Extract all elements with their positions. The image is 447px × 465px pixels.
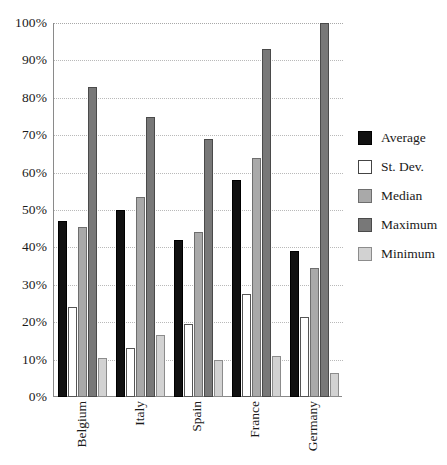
- bar-italy-average[interactable]: [116, 210, 125, 397]
- legend-label-minimum: Minimum: [381, 247, 435, 261]
- bar-group-france: [227, 23, 285, 397]
- y-axis-tick-30: 30%: [3, 278, 47, 292]
- y-axis-tick-60: 60%: [3, 166, 47, 180]
- x-axis-slot-belgium: Belgium: [53, 399, 111, 465]
- bar-spain-st-dev[interactable]: [184, 324, 193, 397]
- bar-france-minimum[interactable]: [272, 356, 281, 397]
- bar-france-st-dev[interactable]: [242, 294, 251, 397]
- y-axis-tick-80: 80%: [3, 91, 47, 105]
- bar-germany-median[interactable]: [310, 268, 319, 397]
- x-axis-slot-germany: Germany: [284, 399, 342, 465]
- x-axis-tick-france: France: [249, 401, 263, 438]
- x-axis-tick-belgium: Belgium: [75, 401, 89, 448]
- legend-item-maximum[interactable]: Maximum: [358, 210, 446, 239]
- legend-item-average[interactable]: Average: [358, 123, 446, 152]
- bar-italy-st-dev[interactable]: [126, 348, 135, 397]
- legend-swatch-average: [358, 131, 372, 145]
- bar-france-average[interactable]: [232, 180, 241, 397]
- y-axis-tick-90: 90%: [3, 53, 47, 67]
- y-axis-tick-0: 0%: [3, 390, 47, 404]
- legend-label-maximum: Maximum: [381, 218, 437, 232]
- legend-label-st-dev: St. Dev.: [381, 160, 424, 174]
- x-axis-slot-italy: Italy: [111, 399, 169, 465]
- y-axis-tick-labels: 0%10%20%30%40%50%60%70%80%90%100%: [0, 0, 47, 465]
- bar-belgium-maximum[interactable]: [88, 87, 97, 397]
- legend-item-st-dev[interactable]: St. Dev.: [358, 152, 446, 181]
- bar-italy-median[interactable]: [136, 197, 145, 397]
- bar-spain-average[interactable]: [174, 240, 183, 397]
- bar-spain-median[interactable]: [194, 232, 203, 397]
- plot-area: [53, 23, 342, 397]
- bar-group-belgium: [54, 23, 112, 397]
- legend-item-minimum[interactable]: Minimum: [358, 239, 446, 268]
- legend-swatch-st-dev: [358, 160, 372, 174]
- legend-swatch-minimum: [358, 247, 372, 261]
- y-axis-tick-100: 100%: [3, 16, 47, 30]
- bar-germany-average[interactable]: [290, 251, 299, 397]
- bar-group-spain: [170, 23, 228, 397]
- y-axis-tick-70: 70%: [3, 128, 47, 142]
- bar-france-maximum[interactable]: [262, 49, 271, 397]
- legend-swatch-maximum: [358, 218, 372, 232]
- bar-italy-maximum[interactable]: [146, 117, 155, 398]
- bar-spain-minimum[interactable]: [214, 360, 223, 397]
- y-axis-tick-20: 20%: [3, 315, 47, 329]
- legend-swatch-median: [358, 189, 372, 203]
- legend-label-average: Average: [381, 131, 426, 145]
- x-axis-tick-spain: Spain: [191, 401, 205, 432]
- bar-italy-minimum[interactable]: [156, 335, 165, 397]
- bar-france-median[interactable]: [252, 158, 261, 397]
- x-axis-tick-germany: Germany: [306, 401, 320, 451]
- bar-belgium-average[interactable]: [58, 221, 67, 397]
- x-axis-slot-france: France: [226, 399, 284, 465]
- bar-groups: [54, 23, 343, 397]
- bar-belgium-median[interactable]: [78, 227, 87, 397]
- bar-chart: 0%10%20%30%40%50%60%70%80%90%100% Belgiu…: [0, 0, 447, 465]
- x-axis-slot-spain: Spain: [169, 399, 227, 465]
- bar-group-italy: [112, 23, 170, 397]
- bar-spain-maximum[interactable]: [204, 139, 213, 397]
- bar-belgium-st-dev[interactable]: [68, 307, 77, 397]
- legend-label-median: Median: [381, 189, 422, 203]
- legend-item-median[interactable]: Median: [358, 181, 446, 210]
- bar-germany-maximum[interactable]: [320, 23, 329, 397]
- y-axis-tick-40: 40%: [3, 240, 47, 254]
- x-axis-tick-labels: BelgiumItalySpainFranceGermany: [53, 399, 342, 465]
- bar-germany-st-dev[interactable]: [300, 317, 309, 397]
- legend: AverageSt. Dev.MedianMaximumMinimum: [358, 123, 446, 268]
- bar-group-germany: [285, 23, 343, 397]
- bar-germany-minimum[interactable]: [330, 373, 339, 397]
- x-axis-tick-italy: Italy: [133, 401, 147, 426]
- y-axis-tick-50: 50%: [3, 203, 47, 217]
- y-axis-tick-10: 10%: [3, 353, 47, 367]
- bar-belgium-minimum[interactable]: [98, 358, 107, 397]
